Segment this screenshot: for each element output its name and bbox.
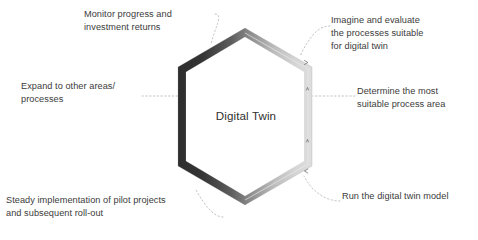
connector-run	[304, 176, 340, 201]
connector-imagine	[300, 26, 330, 56]
step-label-monitor: Monitor progress and investment returns	[84, 8, 214, 34]
step-label-determine: Determine the most suitable process area	[357, 85, 477, 111]
step-label-expand: Expand to other areas/ processes	[21, 80, 156, 106]
diagram-canvas: Monitor progress and investment returns …	[0, 0, 478, 240]
step-label-imagine: Imagine and evaluate the processes suita…	[331, 14, 471, 54]
step-label-run: Run the digital twin model	[342, 190, 478, 203]
hexagon-center-label: Digital Twin	[186, 109, 306, 122]
step-label-steady: Steady implementation of pilot projects …	[6, 194, 221, 220]
